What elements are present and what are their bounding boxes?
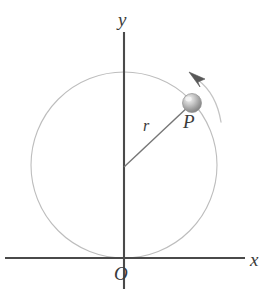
y-axis-label: y — [118, 10, 126, 29]
x-axis-label: x — [250, 250, 258, 269]
circular-motion-figure: y x O r P — [0, 0, 278, 302]
origin-label: O — [114, 264, 128, 283]
radius-label: r — [143, 118, 149, 134]
figure-canvas — [0, 0, 278, 302]
point-p-label: P — [183, 112, 195, 131]
ball-highlight — [185, 97, 191, 102]
particle-ball — [183, 94, 202, 113]
radius-line — [124, 105, 190, 167]
